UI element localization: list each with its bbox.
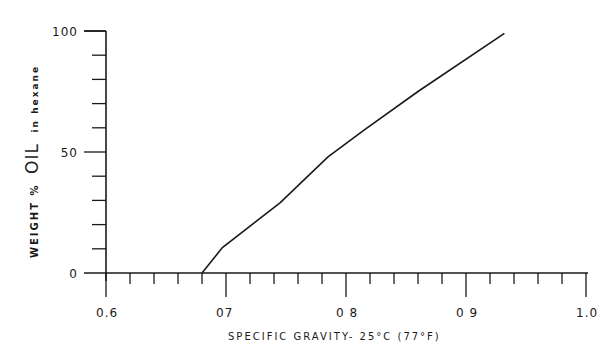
y-axis-title-main: OIL [22, 143, 42, 174]
x-tick-label: 0 8 [336, 306, 358, 320]
y-tick-label: 50 [61, 146, 78, 160]
x-tick-label: 0 9 [456, 306, 478, 320]
x-tick-label: 1.0 [576, 306, 598, 320]
x-tick-label: 0.6 [96, 306, 118, 320]
y-axis-title: WEIGHT % OIL in hexane [22, 65, 42, 258]
tick-marks [84, 31, 586, 297]
y-tick-label: 100 [52, 25, 78, 39]
x-axis-title: SPECIFIC GRAVITY- 25°C (77°F) [228, 331, 441, 342]
chart-canvas: 0.6070 80 91.0 050100 SPECIFIC GRAVITY- … [0, 0, 612, 357]
svg-text:WEIGHT % OIL in he: WEIGHT % OIL in hexane [22, 65, 42, 258]
axes [84, 31, 588, 281]
y-axis-title-prefix: WEIGHT % [29, 184, 40, 258]
y-tick-labels: 050100 [52, 25, 78, 281]
x-tick-label: 07 [216, 306, 233, 320]
y-tick-label: 0 [69, 267, 78, 281]
x-tick-labels: 0.6070 80 91.0 [96, 306, 598, 320]
y-axis-title-suffix: in hexane [30, 65, 40, 133]
data-line [202, 33, 504, 273]
